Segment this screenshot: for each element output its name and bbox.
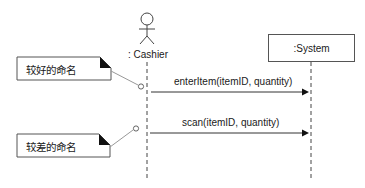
note-anchor-circle-icon xyxy=(133,126,138,131)
message-arrow-enteritem xyxy=(151,89,309,96)
note-folded-corner-icon xyxy=(100,57,111,68)
message-label-scan: scan(itemID, quantity) xyxy=(182,117,279,128)
note-connector xyxy=(111,71,138,85)
note-anchor-circle-icon xyxy=(138,84,143,89)
note-text-good: 较好的命名 xyxy=(26,62,76,77)
system-label: :System xyxy=(293,43,329,54)
message-label-enteritem: enterItem(itemID, quantity) xyxy=(174,76,292,87)
actor-stick-figure-icon xyxy=(139,13,155,44)
note-connector xyxy=(110,130,133,147)
actor-label-cashier: : Cashier xyxy=(128,49,168,60)
note-text-bad: 较差的命名 xyxy=(26,139,76,154)
message-arrow-scan xyxy=(150,130,309,137)
system-lifeline-box: :System xyxy=(268,34,355,62)
sequence-diagram-canvas xyxy=(0,0,365,188)
